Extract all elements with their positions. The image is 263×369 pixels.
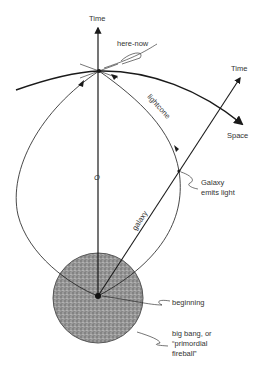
lightcone-arrow-right-mid [174,145,179,152]
beginning-point [95,293,101,299]
here-now-point [97,69,101,73]
tilted-time-label: Time [231,64,247,73]
big-bang-label-line3: fireball” [172,349,197,358]
origin-label: O [94,173,100,182]
beginning-label: beginning [172,298,205,307]
space-label: Space [227,131,248,140]
emission-point [177,169,180,172]
big-bang-pointer [137,332,168,346]
big-bang-label-line1: big bang, or [172,329,212,338]
time-axis-label: Time [89,14,105,23]
space-hypersurface [16,71,242,124]
emission-pointer [181,172,198,189]
here-now-label: here-now [117,39,149,48]
big-bang-label-line2: “primordial [172,339,208,348]
galaxy-emits-label-line2: emits light [201,188,236,197]
galaxy-emits-label-line1: Galaxy [201,178,225,187]
lightcone-diagram: Time here-now Time Space lightcone O Gal… [0,0,263,369]
lightcone-label: lightcone [146,92,173,120]
